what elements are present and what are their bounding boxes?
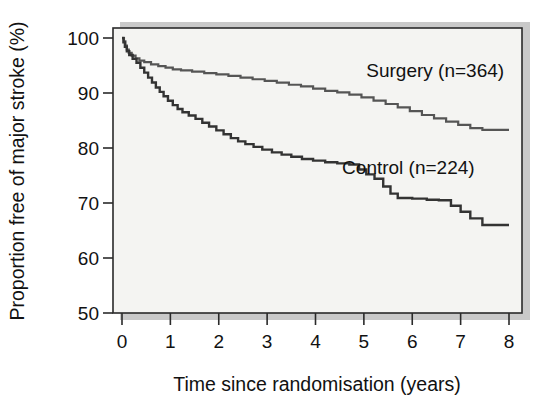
- y-tick-label: 90: [78, 83, 99, 104]
- y-tick-label: 60: [78, 248, 99, 269]
- chart-svg: 5060708090100 012345678 Surgery (n=364) …: [0, 0, 556, 404]
- kaplan-meier-figure: 5060708090100 012345678 Surgery (n=364) …: [0, 0, 556, 404]
- x-tick-label: 5: [359, 331, 370, 352]
- x-tick-label: 2: [213, 331, 224, 352]
- x-axis-title: Time since randomisation (years): [173, 373, 461, 395]
- y-tick-label: 80: [78, 138, 99, 159]
- y-tick-label: 70: [78, 193, 99, 214]
- y-tick-label: 50: [78, 303, 99, 324]
- series-label-surgery: Surgery (n=364): [366, 60, 504, 81]
- series-label-control: Control (n=224): [342, 157, 475, 178]
- x-tick-label: 6: [407, 331, 418, 352]
- x-tick-label: 3: [262, 331, 273, 352]
- x-tick-label: 7: [455, 331, 466, 352]
- x-tick-label: 1: [165, 331, 176, 352]
- x-tick-label: 8: [504, 331, 515, 352]
- x-tick-label: 4: [310, 331, 321, 352]
- x-tick-label: 0: [117, 331, 128, 352]
- y-axis-title: Proportion free of major stroke (%): [6, 21, 28, 320]
- y-tick-label: 100: [67, 28, 99, 49]
